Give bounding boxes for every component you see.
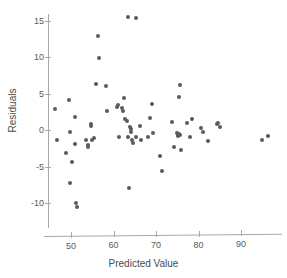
y-axis-title: Residuals: [7, 61, 18, 161]
data-point: [104, 84, 108, 88]
data-point: [185, 121, 189, 125]
data-point: [84, 138, 88, 142]
data-point: [178, 83, 182, 87]
data-point: [121, 109, 125, 113]
data-point: [64, 151, 68, 155]
data-point: [105, 109, 109, 113]
y-tick-0: [45, 130, 51, 131]
y-tick-label-0: 0: [39, 126, 44, 135]
data-point: [150, 102, 154, 106]
data-point: [188, 135, 192, 139]
data-point: [151, 131, 155, 135]
data-point: [70, 160, 74, 164]
y-tick-5: [45, 94, 51, 95]
x-tick-label-90: 90: [226, 240, 256, 249]
data-point: [127, 186, 131, 190]
data-point: [148, 116, 152, 120]
x-axis-title: Predicted Value: [0, 258, 287, 269]
data-point: [68, 130, 72, 134]
residual-scatter-plot: 151050-5-10 5060708090 Residuals Predict…: [0, 0, 287, 278]
data-point: [129, 130, 133, 134]
y-tick-label-10: 10: [34, 53, 44, 62]
data-point: [55, 138, 59, 142]
data-point: [75, 205, 79, 209]
data-point: [206, 139, 210, 143]
x-tick-60: [114, 231, 115, 237]
data-point: [178, 133, 182, 137]
x-tick-label-80: 80: [184, 241, 214, 250]
data-point: [134, 135, 138, 139]
x-tick-label-60: 60: [99, 241, 129, 250]
x-tick-70: [156, 231, 157, 237]
data-point: [134, 16, 138, 20]
data-point: [146, 135, 150, 139]
data-point: [92, 136, 96, 140]
data-point: [158, 154, 162, 158]
data-point: [190, 117, 194, 121]
data-point: [53, 107, 57, 111]
y-tick-label--5: -5: [36, 163, 44, 172]
data-point: [73, 142, 77, 146]
data-point: [73, 115, 77, 119]
y-tick-label-15: 15: [34, 17, 44, 26]
y-tick--10: [45, 203, 51, 204]
data-point: [172, 145, 176, 149]
data-point: [201, 130, 205, 134]
x-tick-50: [71, 232, 72, 238]
data-point: [160, 169, 164, 173]
data-point: [116, 103, 120, 107]
data-point: [94, 82, 98, 86]
y-tick-15: [45, 21, 51, 22]
x-tick-label-50: 50: [56, 242, 86, 251]
data-point: [260, 138, 264, 142]
y-tick-label--10: -10: [31, 199, 44, 208]
data-point: [89, 124, 93, 128]
data-point: [67, 98, 71, 102]
data-point: [68, 181, 72, 185]
data-point: [122, 96, 126, 100]
data-point: [139, 138, 143, 142]
data-point: [131, 141, 135, 145]
x-tick-90: [241, 230, 242, 236]
data-point: [138, 124, 142, 128]
y-axis-line: [48, 14, 49, 228]
x-tick-label-70: 70: [141, 241, 171, 250]
y-tick--5: [45, 167, 51, 168]
data-point: [96, 34, 100, 38]
data-point: [218, 125, 222, 129]
y-tick-label-5: 5: [39, 90, 44, 99]
y-tick-10: [45, 57, 51, 58]
data-point: [125, 119, 129, 123]
data-point: [170, 120, 174, 124]
data-point: [86, 145, 90, 149]
x-tick-80: [199, 231, 200, 237]
x-axis-line: [44, 234, 282, 237]
data-point: [179, 148, 183, 152]
data-point: [177, 95, 181, 99]
data-point: [97, 56, 101, 60]
data-point: [117, 135, 121, 139]
data-point: [266, 134, 270, 138]
data-point: [126, 15, 130, 19]
